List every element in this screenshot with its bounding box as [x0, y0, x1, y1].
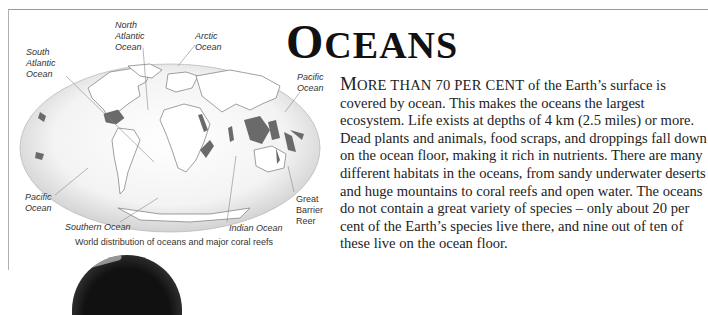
- label-south-atlantic: South Atlantic Ocean: [26, 47, 56, 80]
- label-north-atlantic: North Atlantic Ocean: [115, 20, 145, 53]
- page-title: OCEANS: [286, 14, 458, 69]
- title-initial: O: [286, 15, 324, 68]
- label-pacific-right: Pacific Ocean: [297, 72, 324, 94]
- label-great-barrier-reef: Great Barrier Reer: [296, 194, 323, 227]
- lead-small-caps: ORE THAN 70 PER CENT: [357, 77, 525, 93]
- world-map-figure: North Atlantic Ocean Arctic Ocean South …: [0, 0, 330, 270]
- label-pacific-left: Pacific Ocean: [25, 192, 52, 214]
- label-indian-ocean: Indian Ocean: [229, 223, 283, 234]
- label-southern-ocean: Southern Ocean: [65, 222, 131, 233]
- body-text: of the Earth’s surface is covered by oce…: [340, 77, 707, 251]
- title-rest: CEANS: [324, 24, 458, 66]
- lead-initial: M: [340, 73, 357, 94]
- label-arctic: Arctic Ocean: [195, 31, 222, 53]
- map-caption: World distribution of oceans and major c…: [75, 237, 273, 247]
- body-paragraph: MORE THAN 70 PER CENT of the Earth’s sur…: [340, 75, 708, 253]
